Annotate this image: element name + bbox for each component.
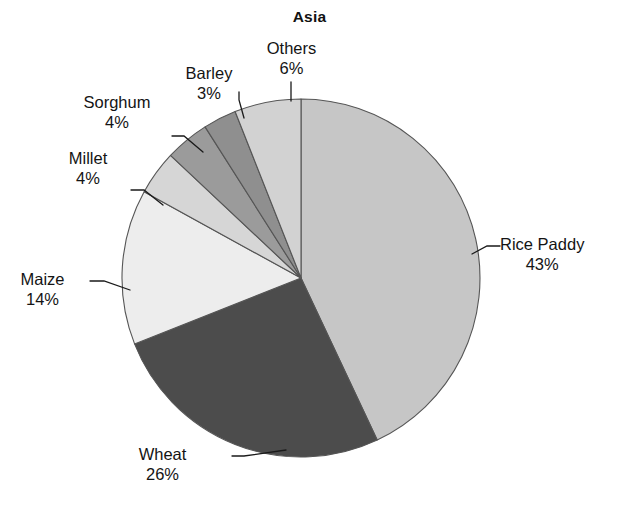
slice-label-rice-paddy-name: Rice Paddy: [500, 234, 584, 254]
slice-label-maize: Maize 14%: [0, 269, 90, 309]
slice-label-millet-pct: 4%: [45, 168, 131, 188]
slice-label-barley-name: Barley: [169, 63, 249, 83]
slice-label-millet-name: Millet: [45, 148, 131, 168]
slice-label-maize-name: Maize: [0, 269, 90, 289]
slice-label-millet: Millet 4%: [45, 148, 131, 188]
slice-label-others: Others 6%: [244, 38, 339, 78]
pie-slices-group: [122, 99, 480, 457]
slice-label-sorghum-pct: 4%: [62, 112, 172, 132]
slice-label-others-name: Others: [244, 38, 339, 58]
slice-label-barley-pct: 3%: [169, 83, 249, 103]
slice-label-wheat: Wheat 26%: [95, 444, 230, 484]
slice-label-wheat-pct: 26%: [95, 464, 230, 484]
slice-label-rice-paddy-pct: 43%: [500, 254, 584, 274]
slice-label-maize-pct: 14%: [0, 289, 90, 309]
slice-label-sorghum-name: Sorghum: [62, 92, 172, 112]
slice-label-wheat-name: Wheat: [95, 444, 230, 464]
slice-label-rice-paddy: Rice Paddy 43%: [500, 234, 584, 274]
slice-label-barley: Barley 3%: [169, 63, 249, 103]
slice-label-sorghum: Sorghum 4%: [62, 92, 172, 132]
pie-chart-figure: Asia Rice Paddy 43% Wheat 26% Maize 14% …: [0, 0, 619, 532]
slice-label-others-pct: 6%: [244, 58, 339, 78]
